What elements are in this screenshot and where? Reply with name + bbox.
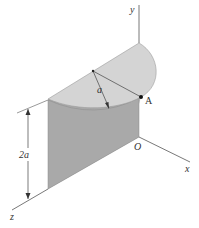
height-arrow-top bbox=[26, 109, 31, 115]
center-dot bbox=[92, 70, 94, 72]
x-axis-label: x bbox=[184, 163, 190, 174]
radius-label: a bbox=[97, 84, 102, 95]
point-a bbox=[139, 95, 143, 99]
z-axis bbox=[12, 189, 48, 210]
height-extension-top bbox=[17, 100, 48, 113]
diagram-canvas: y x z O a A 2a bbox=[0, 0, 199, 228]
height-arrow-bottom bbox=[26, 193, 31, 199]
y-axis-label: y bbox=[129, 4, 135, 15]
x-axis bbox=[139, 137, 190, 162]
origin-label: O bbox=[134, 141, 141, 152]
height-label: 2a bbox=[19, 149, 29, 160]
front-face-top bbox=[48, 98, 139, 189]
point-a-label: A bbox=[145, 95, 153, 106]
z-axis-label: z bbox=[9, 211, 14, 222]
